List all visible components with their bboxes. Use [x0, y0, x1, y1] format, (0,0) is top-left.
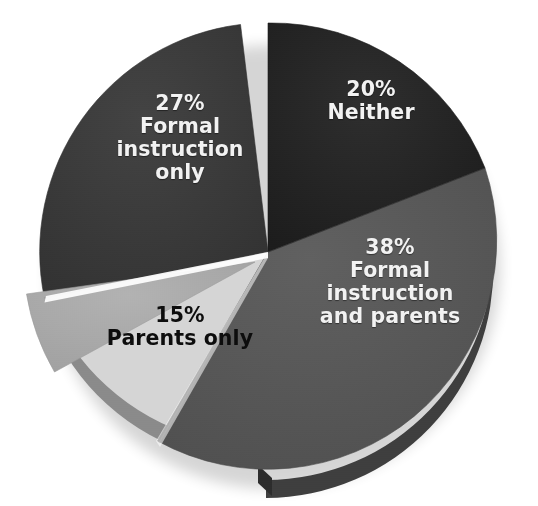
pie-slice-formal-only[interactable]	[40, 25, 268, 299]
pie-chart-graphic	[0, 0, 538, 506]
pie-chart: 20% Neither 27% Formal instruction only …	[0, 0, 538, 506]
